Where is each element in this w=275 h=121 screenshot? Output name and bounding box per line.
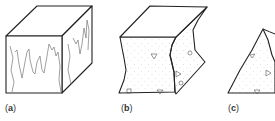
block-front-face bbox=[119, 37, 176, 93]
panel-c-label: (c) bbox=[228, 103, 239, 113]
cube-front-face bbox=[6, 36, 62, 93]
panel-a-label: (a) bbox=[5, 103, 16, 113]
panel-b-label: (b) bbox=[121, 103, 133, 113]
panel-c-wedge bbox=[228, 29, 275, 94]
wedge-face bbox=[228, 29, 275, 93]
panel-b-block bbox=[119, 6, 207, 94]
